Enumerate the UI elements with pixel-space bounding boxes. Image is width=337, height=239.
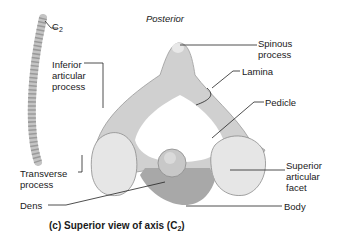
lamina-label: Lamina	[242, 66, 273, 77]
dens-label: Dens	[20, 200, 42, 211]
spinous-process-label: Spinous process	[258, 38, 292, 60]
inferior-articular-process-label: Inferior articular process	[52, 59, 86, 92]
spine-c2-label: C2	[52, 21, 63, 35]
vertebra-bone	[91, 43, 265, 205]
spine-thumbnail-icon	[32, 18, 43, 162]
transverse-process-label: Transverse process	[20, 168, 67, 190]
body-label: Body	[284, 201, 306, 212]
pedicle-label: Pedicle	[265, 97, 296, 108]
superior-articular-facet-label: Superior articular facet	[286, 160, 322, 193]
figure-caption: (c) Superior view of axis (C2)	[49, 220, 185, 232]
posterior-label: Posterior	[146, 13, 184, 24]
